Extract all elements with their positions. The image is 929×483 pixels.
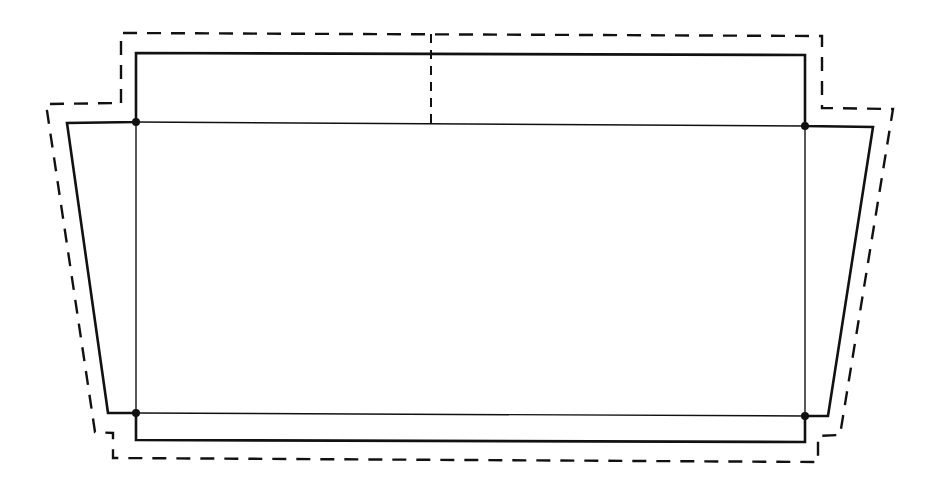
solid-outer-outline [67,53,873,442]
outline-diagram [0,0,929,483]
dashed-offset-outline [46,33,893,462]
node-top-right [801,122,809,130]
inner-bottom-line [136,413,805,416]
inner-top-line [136,122,805,126]
node-top-left [132,118,140,126]
node-bottom-left [132,409,140,417]
node-bottom-right [801,412,809,420]
